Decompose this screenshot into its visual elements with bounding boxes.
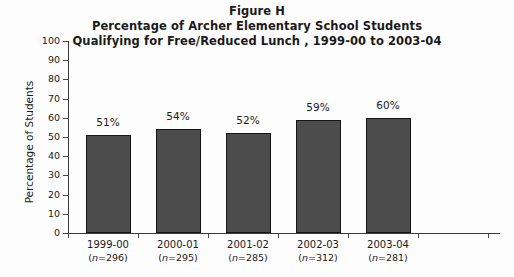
y-axis-tick [63,156,68,157]
y-axis-tick-label-wrap: 0 [30,228,60,238]
x-axis-sample-size-label: (n=312) [280,252,357,264]
y-axis-tick-label-wrap: 90 [30,55,60,65]
y-axis-tick-label-wrap: 100 [30,36,60,46]
y-axis-tick [63,60,68,61]
y-axis-tick-label: 50 [34,132,60,142]
y-axis-tick-label-wrap: 30 [30,170,60,180]
y-axis-tick-label: 0 [34,228,60,238]
x-axis-line [68,233,500,234]
y-axis-tick [63,99,68,100]
y-axis-tick-label-wrap: 80 [30,74,60,84]
x-axis-tick [208,233,209,238]
x-axis-sample-size-label: (n=281) [350,252,427,264]
y-axis-tick [63,195,68,196]
y-axis-tick [63,118,68,119]
bar-value-label: 54% [144,111,213,122]
x-axis-sample-size-label: (n=295) [140,252,217,264]
bar [156,129,201,233]
y-axis-tick-label-wrap: 20 [30,190,60,200]
x-axis-tick [138,233,139,238]
x-axis-category-label: 2001-02 [210,239,287,251]
y-axis-tick-label-wrap: 10 [30,209,60,219]
y-axis-tick-label: 30 [34,170,60,180]
x-axis-tick [68,233,69,238]
x-axis-category-label: 2003-04 [350,239,427,251]
y-axis-tick-label: 80 [34,74,60,84]
bar [366,118,411,233]
y-axis-tick-label-wrap: 70 [30,94,60,104]
y-axis-tick-label: 90 [34,55,60,65]
bar [226,133,271,233]
bar-value-label: 52% [214,115,283,126]
bar-value-label: 60% [354,100,423,111]
x-axis-sample-size-label: (n=296) [70,252,147,264]
y-axis-tick-label-wrap: 60 [30,113,60,123]
x-axis-tick [348,233,349,238]
x-axis-tick [488,233,489,238]
bar-value-label: 59% [284,102,353,113]
y-axis-tick [63,41,68,42]
y-axis-tick [63,79,68,80]
y-axis-tick-label-wrap: 50 [30,132,60,142]
y-axis-tick-label: 70 [34,94,60,104]
x-axis-category-label: 2002-03 [280,239,357,251]
y-axis-tick [63,137,68,138]
bar [296,120,341,233]
x-axis-sample-size-label: (n=285) [210,252,287,264]
bar-value-label: 51% [74,117,143,128]
x-axis-category-label: 2000-01 [140,239,217,251]
y-axis-tick-label: 20 [34,190,60,200]
y-axis-tick-label: 10 [34,209,60,219]
x-axis-tick [418,233,419,238]
bar [86,135,131,233]
y-axis-tick-label: 100 [34,36,60,46]
x-axis-category-label: 1999-00 [70,239,147,251]
y-axis-tick [63,214,68,215]
plot-area: Percentage of Students 01020304050607080… [0,0,514,277]
figure-h-chart: Figure H Percentage of Archer Elementary… [0,0,514,277]
x-axis-tick [278,233,279,238]
y-axis-tick-label: 40 [34,151,60,161]
y-axis-tick [63,175,68,176]
y-axis-tick-label: 60 [34,113,60,123]
y-axis-line [68,41,69,234]
y-axis-tick-label-wrap: 40 [30,151,60,161]
